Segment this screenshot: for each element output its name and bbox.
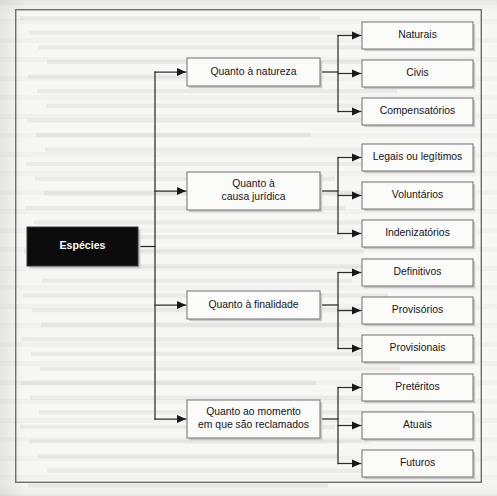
node-label: em que são reclamados: [198, 419, 309, 430]
arrow-head-icon: [352, 421, 361, 429]
arrow-head-icon: [352, 69, 361, 77]
branch-node-quanto-a-natureza[interactable]: Quanto à natureza: [187, 58, 322, 88]
branch-node-quanto-a-finalidade[interactable]: Quanto à finalidade: [187, 291, 322, 321]
node-label: Compensatórios: [380, 105, 456, 116]
arrow-head-icon: [352, 383, 361, 391]
leaf-node-naturais[interactable]: Naturais: [362, 22, 475, 51]
branch-node-quanto-a-causa-juridica[interactable]: Quanto àcausa jurídica: [187, 172, 322, 212]
leaf-node-preteritos[interactable]: Pretéritos: [362, 374, 475, 403]
leaf-node-indenizatorios[interactable]: Indenizatórios: [362, 220, 475, 249]
node-label: Futuros: [400, 457, 435, 468]
scanned-page: EspéciesQuanto à naturezaNaturaisCivisCo…: [0, 0, 497, 496]
leaf-node-provisorios[interactable]: Provisórios: [362, 297, 475, 326]
root-node-label: Espécies: [60, 239, 106, 251]
node-label: Voluntários: [392, 189, 443, 200]
node-label: Quanto à: [232, 178, 275, 189]
node-label: causa jurídica: [221, 191, 285, 202]
leaf-node-atuais[interactable]: Atuais: [362, 412, 475, 441]
arrow-head-icon: [352, 306, 361, 314]
arrow-head-icon: [352, 107, 361, 115]
leaf-node-voluntarios[interactable]: Voluntários: [362, 182, 475, 211]
node-label: Quanto à natureza: [210, 66, 296, 77]
arrow-head-icon: [352, 459, 361, 467]
arrow-head-icon: [352, 344, 361, 352]
node-label: Pretéritos: [395, 381, 439, 392]
node-label: Civis: [406, 67, 429, 78]
leaf-node-compensatorios[interactable]: Compensatórios: [362, 98, 475, 127]
node-label: Quanto à finalidade: [208, 299, 298, 310]
arrow-head-icon: [352, 229, 361, 237]
node-label: Definitivos: [394, 266, 442, 277]
leaf-node-definitivos[interactable]: Definitivos: [362, 259, 475, 288]
node-label: Atuais: [403, 419, 432, 430]
node-label: Indenizatórios: [385, 227, 450, 238]
leaf-node-civis[interactable]: Civis: [362, 60, 475, 89]
leaf-node-futuros[interactable]: Futuros: [362, 450, 475, 479]
root-node-especies[interactable]: Espécies: [27, 227, 140, 268]
node-label: Legais ou legítimos: [373, 151, 463, 162]
node-label: Naturais: [398, 29, 437, 40]
especies-tree-diagram: EspéciesQuanto à naturezaNaturaisCivisCo…: [0, 0, 497, 496]
node-label: Provisionais: [389, 342, 445, 353]
arrow-head-icon: [177, 415, 186, 423]
node-label: Provisórios: [392, 304, 443, 315]
leaf-node-provisionais[interactable]: Provisionais: [362, 335, 475, 364]
arrow-head-icon: [352, 153, 361, 161]
leaf-node-legais-ou-legitimos[interactable]: Legais ou legítimos: [362, 144, 475, 173]
branch-node-quanto-ao-momento[interactable]: Quanto ao momentoem que são reclamados: [187, 400, 322, 440]
arrow-head-icon: [352, 268, 361, 276]
node-label: Quanto ao momento: [206, 406, 301, 417]
arrow-head-icon: [177, 301, 186, 309]
